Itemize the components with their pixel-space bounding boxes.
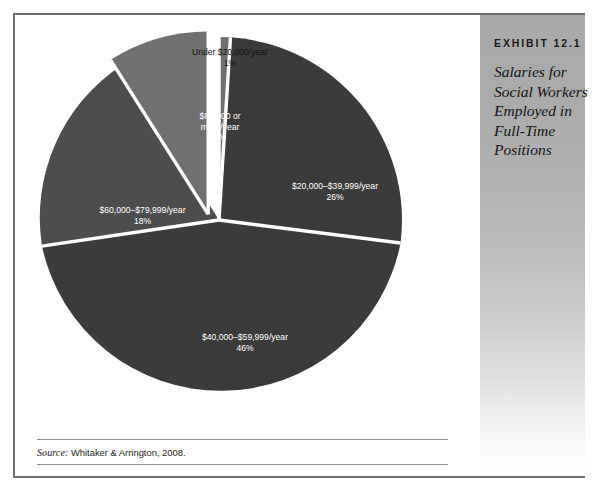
exhibit-title-line-2: Social Workers xyxy=(494,82,576,102)
exhibit-title-line-4: Full-Time xyxy=(494,121,576,141)
exhibit-title-line-1: Salaries for xyxy=(494,62,576,82)
source-citation: Whitaker & Arrington, 2008. xyxy=(68,447,185,458)
exhibit-title: Salaries for Social Workers Employed in … xyxy=(494,62,576,160)
exhibit-page: Under $20,000/year 1% $20,000–$39,999/ye… xyxy=(0,0,601,495)
exhibit-sidebar-content: EXHIBIT 12.1 Salaries for Social Workers… xyxy=(494,37,576,160)
pie-slice-20000-39999[interactable] xyxy=(219,37,402,243)
exhibit-sidebar: EXHIBIT 12.1 Salaries for Social Workers… xyxy=(480,15,585,476)
page-frame: Under $20,000/year 1% $20,000–$39,999/ye… xyxy=(13,13,585,478)
source-note: Source: Whitaker & Arrington, 2008. xyxy=(37,447,457,458)
source-rule-top xyxy=(37,439,448,440)
exhibit-number-label: EXHIBIT 12.1 xyxy=(494,37,576,49)
source-rule-bottom xyxy=(37,464,448,465)
exhibit-title-line-3: Employed in xyxy=(494,101,576,121)
pie-slice-40000-59999[interactable] xyxy=(42,220,401,391)
pie-chart xyxy=(29,30,409,410)
exhibit-title-line-5: Positions xyxy=(494,140,576,160)
source-label: Source: xyxy=(37,447,68,458)
chart-area: Under $20,000/year 1% $20,000–$39,999/ye… xyxy=(15,15,480,476)
